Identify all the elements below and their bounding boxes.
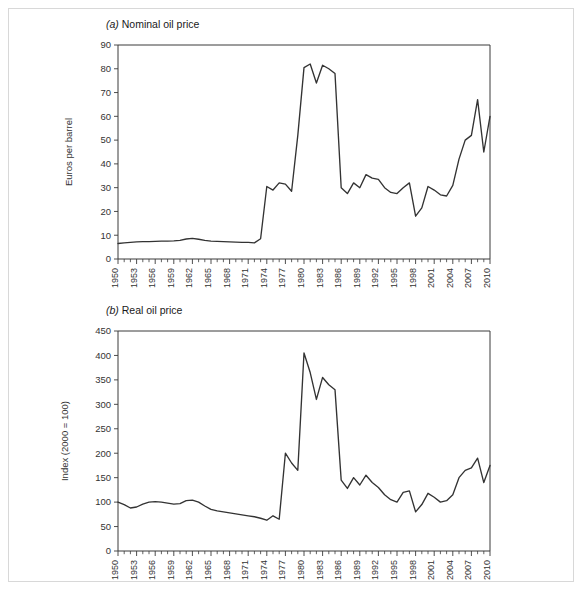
x-tick-label: 1992 [370, 268, 380, 288]
data-series-line [118, 353, 490, 520]
x-tick-label: 2001 [426, 268, 436, 288]
x-tick-label: 1992 [370, 560, 380, 580]
x-tick-label: 1980 [296, 560, 306, 580]
x-tick-label: 1968 [222, 268, 232, 288]
x-tick-label: 1983 [315, 268, 325, 288]
y-tick-label: 90 [100, 39, 111, 50]
x-tick-label: 1995 [389, 268, 399, 288]
y-tick-label: 20 [100, 206, 111, 217]
chart-a-canvas: 0102030405060708090Euros per barrel19501… [0, 14, 582, 304]
y-tick-label: 100 [95, 496, 111, 507]
axis-frame [118, 45, 490, 259]
x-tick-label: 1953 [129, 560, 139, 580]
y-tick-label: 50 [100, 521, 111, 532]
y-tick-label: 0 [106, 545, 111, 556]
chart-b-canvas: 050100150200250300350400450Index (2000 =… [0, 300, 582, 585]
x-tick-label: 1950 [110, 560, 120, 580]
x-tick-label: 1995 [389, 560, 399, 580]
x-tick-label: 1959 [166, 268, 176, 288]
y-tick-label: 350 [95, 374, 111, 385]
chart-panel-real-oil-price: (b) Real oil price 050100150200250300350… [0, 300, 582, 585]
x-tick-label: 1980 [296, 268, 306, 288]
y-tick-label: 80 [100, 63, 111, 74]
x-tick-label: 1956 [147, 268, 157, 288]
x-tick-label: 1956 [147, 560, 157, 580]
y-axis-title: Index (2000 = 100) [59, 401, 70, 481]
y-tick-label: 200 [95, 448, 111, 459]
y-tick-label: 50 [100, 134, 111, 145]
y-tick-label: 70 [100, 87, 111, 98]
x-tick-label: 1986 [333, 268, 343, 288]
x-tick-label: 1977 [277, 268, 287, 288]
figure-page: (a) Nominal oil price 010203040506070809… [0, 0, 582, 590]
x-tick-label: 1968 [222, 560, 232, 580]
y-tick-label: 40 [100, 158, 111, 169]
data-series-line [118, 64, 490, 244]
x-tick-label: 1989 [352, 560, 362, 580]
x-tick-label: 2010 [482, 560, 492, 580]
x-tick-label: 1989 [352, 268, 362, 288]
y-tick-label: 30 [100, 182, 111, 193]
x-tick-label: 1965 [203, 560, 213, 580]
y-tick-label: 300 [95, 399, 111, 410]
x-tick-label: 2004 [445, 560, 455, 580]
x-tick-label: 1986 [333, 560, 343, 580]
chart-panel-nominal-oil-price: (a) Nominal oil price 010203040506070809… [0, 14, 582, 304]
axis-frame-outer [118, 45, 490, 259]
x-tick-label: 1962 [184, 268, 194, 288]
x-tick-label: 1971 [240, 268, 250, 288]
x-tick-label: 2004 [445, 268, 455, 288]
y-tick-label: 60 [100, 111, 111, 122]
x-tick-label: 1965 [203, 268, 213, 288]
y-tick-label: 10 [100, 230, 111, 241]
x-tick-label: 1962 [184, 560, 194, 580]
x-tick-label: 2001 [426, 560, 436, 580]
y-tick-label: 400 [95, 350, 111, 361]
x-tick-label: 2007 [463, 560, 473, 580]
y-tick-label: 150 [95, 472, 111, 483]
x-tick-label: 1959 [166, 560, 176, 580]
x-tick-label: 1998 [408, 268, 418, 288]
x-tick-label: 1974 [259, 268, 269, 288]
y-tick-label: 450 [95, 325, 111, 336]
x-tick-label: 1983 [315, 560, 325, 580]
x-tick-label: 1998 [408, 560, 418, 580]
x-tick-label: 1953 [129, 268, 139, 288]
x-tick-label: 2010 [482, 268, 492, 288]
x-tick-label: 1974 [259, 560, 269, 580]
y-axis-title: Euros per barrel [63, 118, 74, 186]
x-tick-label: 1971 [240, 560, 250, 580]
x-tick-label: 1977 [277, 560, 287, 580]
y-tick-label: 0 [106, 253, 111, 264]
x-tick-label: 2007 [463, 268, 473, 288]
y-tick-label: 250 [95, 423, 111, 434]
x-tick-label: 1950 [110, 268, 120, 288]
